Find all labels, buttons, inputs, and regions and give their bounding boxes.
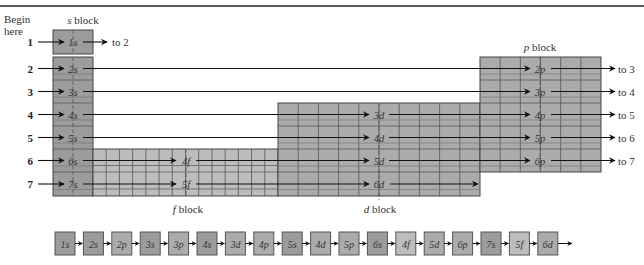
row-exit-label: to 6 bbox=[618, 132, 635, 144]
row-exit-label: to 4 bbox=[618, 86, 635, 98]
sequence-box-4d: 4d bbox=[311, 232, 331, 255]
orbital-3d: 3d bbox=[373, 110, 385, 121]
sequence-box-7s: 7s bbox=[481, 232, 501, 255]
d-block-label: d block bbox=[364, 203, 397, 215]
sequence-box-3p: 3p bbox=[169, 232, 189, 255]
sequence-label: 5f bbox=[516, 239, 525, 250]
sequence-label: 1s bbox=[61, 239, 70, 250]
orbital-7s: 7s bbox=[68, 179, 77, 190]
row-exit-label: to 7 bbox=[618, 155, 635, 167]
orbital-3p: 3p bbox=[534, 87, 546, 98]
sequence-box-2p: 2p bbox=[112, 232, 132, 255]
sequence-label: 5p bbox=[344, 239, 354, 250]
orbital-1s: 1s bbox=[68, 37, 77, 48]
orbital-4d: 4d bbox=[374, 133, 385, 144]
sequence-box-6d: 6d bbox=[538, 232, 558, 255]
orbital-2s: 2s bbox=[68, 64, 77, 75]
sequence-label: 4s bbox=[203, 239, 212, 250]
row-exit-label: to 2 bbox=[112, 36, 129, 48]
period-number: 6 bbox=[28, 155, 34, 167]
sequence-box-5p: 5p bbox=[339, 232, 359, 255]
sequence-label: 6p bbox=[458, 239, 468, 250]
period-number: 2 bbox=[28, 63, 34, 75]
sequence-label: 4p bbox=[259, 239, 269, 250]
orbital-4s: 4s bbox=[68, 110, 77, 121]
period-number: 4 bbox=[28, 109, 34, 121]
period-number: 1 bbox=[28, 36, 34, 48]
sequence-box-6p: 6p bbox=[453, 232, 473, 255]
filling-sequence: 1s2s2p3s3p4s3d4p5s4d5p6s4f5d6p7s5f6d bbox=[55, 232, 572, 255]
sequence-label: 5s bbox=[288, 239, 297, 250]
orbital-5p: 5p bbox=[535, 133, 546, 144]
period-number: 3 bbox=[28, 86, 34, 98]
orbital-2p: 2p bbox=[535, 64, 546, 75]
orbital-5s: 5s bbox=[68, 133, 77, 144]
sequence-label: 4d bbox=[316, 239, 327, 250]
sequence-box-5s: 5s bbox=[282, 232, 302, 255]
periodic-block-grid: s blockp blockf blockd block11sto 222s2p… bbox=[0, 0, 644, 265]
orbital-5d: 5d bbox=[374, 156, 385, 167]
sequence-label: 7s bbox=[487, 239, 496, 250]
row-exit-label: to 5 bbox=[618, 109, 635, 121]
s-block-label: s block bbox=[67, 14, 99, 26]
sequence-box-5d: 5d bbox=[424, 232, 444, 255]
orbital-6p: 6p bbox=[535, 156, 546, 167]
sequence-label: 2s bbox=[89, 239, 98, 250]
sequence-box-2s: 2s bbox=[83, 232, 103, 255]
sequence-box-4p: 4p bbox=[254, 232, 274, 255]
sequence-box-4f: 4f bbox=[396, 232, 416, 255]
f-block-label: f block bbox=[173, 203, 204, 215]
period-number: 7 bbox=[28, 178, 34, 190]
row-exit-label: to 3 bbox=[618, 63, 635, 75]
sequence-label: 3d bbox=[229, 239, 241, 250]
sequence-box-3s: 3s bbox=[140, 232, 160, 255]
sequence-label: 6s bbox=[373, 239, 382, 250]
orbital-6s: 6s bbox=[68, 156, 77, 167]
orbital-3s: 3s bbox=[67, 87, 77, 98]
sequence-box-1s: 1s bbox=[55, 232, 75, 255]
sequence-box-3d: 3d bbox=[225, 232, 245, 255]
sequence-box-4s: 4s bbox=[197, 232, 217, 255]
p-block-label: p block bbox=[523, 41, 557, 53]
orbital-4p: 4p bbox=[535, 110, 546, 121]
sequence-label: 3s bbox=[145, 239, 155, 250]
sequence-label: 2p bbox=[117, 239, 127, 250]
sequence-label: 4f bbox=[402, 239, 411, 250]
s-block bbox=[53, 57, 93, 196]
sequence-box-5f: 5f bbox=[509, 232, 529, 255]
sequence-box-6s: 6s bbox=[367, 232, 387, 255]
sequence-label: 3p bbox=[173, 239, 184, 250]
orbital-filling-diagram: Begin here s blockp blockf blockd block1… bbox=[0, 0, 644, 265]
sequence-label: 5d bbox=[429, 239, 440, 250]
period-number: 5 bbox=[28, 132, 34, 144]
sequence-label: 6d bbox=[543, 239, 554, 250]
orbital-6d: 6d bbox=[374, 179, 385, 190]
